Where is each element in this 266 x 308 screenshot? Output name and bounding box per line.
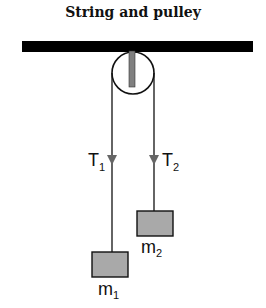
- mass-label-left: m1: [98, 279, 119, 301]
- tension-label-left: T1: [88, 150, 105, 173]
- tension-arrow-right: [149, 155, 159, 165]
- pulley-axle: [129, 51, 135, 87]
- tension-arrow-left: [107, 155, 117, 165]
- tension-label-right: T2: [162, 150, 179, 173]
- mass-right-block: [137, 211, 173, 236]
- ceiling-bar: [22, 41, 253, 52]
- mass-label-right: m2: [141, 237, 162, 259]
- pulley-diagram: T1 T2 m2 m1: [0, 0, 266, 308]
- mass-left-block: [92, 252, 128, 277]
